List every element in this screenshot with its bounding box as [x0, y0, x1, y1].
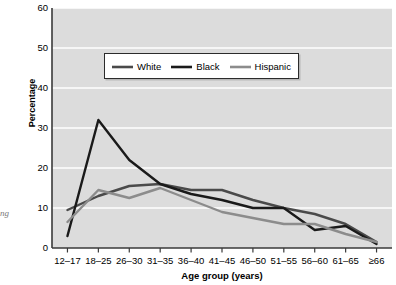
legend-line-swatch — [171, 57, 192, 75]
legend-line-swatch — [230, 57, 251, 75]
x-tick-label: 36–40 — [178, 255, 204, 266]
legend-line-swatch — [112, 57, 133, 75]
x-tick-label: 31–35 — [147, 255, 173, 266]
x-tick-label: 18–25 — [85, 255, 111, 266]
legend-item-hispanic: Hispanic — [230, 57, 291, 75]
legend-label: Black — [196, 61, 219, 72]
x-tick-label: 41–45 — [209, 255, 235, 266]
plot-canvas — [0, 0, 396, 285]
x-tick-label: 61–65 — [332, 255, 358, 266]
chart-figure: ng Percentage 0102030405060 12–1718–2526… — [0, 0, 396, 285]
x-tick-label: 12–17 — [54, 255, 80, 266]
x-tick-label: ≥66 — [369, 255, 385, 266]
legend-item-black: Black — [171, 57, 219, 75]
legend-item-white: White — [112, 57, 161, 75]
x-tick-label: 46–50 — [240, 255, 266, 266]
x-tick-label: 56–60 — [302, 255, 328, 266]
x-axis-title: Age group (years) — [52, 270, 392, 281]
x-tick-label: 26–30 — [116, 255, 142, 266]
chart-legend: WhiteBlackHispanic — [104, 53, 299, 79]
legend-label: White — [137, 61, 161, 72]
legend-label: Hispanic — [255, 61, 291, 72]
x-tick-label: 51–55 — [271, 255, 297, 266]
